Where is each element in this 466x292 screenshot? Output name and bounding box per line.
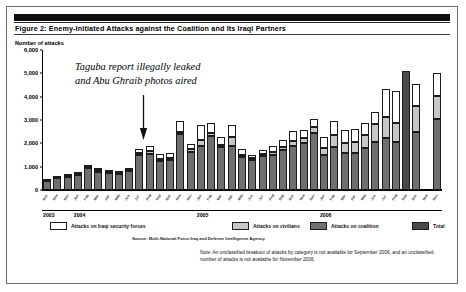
bar-segment-isf: [217, 137, 225, 144]
bar-segment-isf: [269, 146, 277, 151]
bar-Aug: [146, 146, 154, 190]
bar-segment-isf: [64, 174, 72, 176]
legend-swatch-coalition: [310, 222, 327, 230]
bar-segment-civilians: [412, 106, 420, 132]
bar-segment-civilians: [207, 133, 215, 136]
x-tick-mark: [324, 189, 325, 191]
bar-Oct: [412, 84, 420, 190]
x-tick-label: Apr: [350, 194, 357, 201]
y-tick-label: 4,000: [24, 94, 38, 100]
bar-segment-civilians: [197, 140, 205, 146]
bar-segment-civilians: [433, 96, 441, 118]
x-tick-mark: [345, 189, 346, 191]
x-tick-mark: [68, 189, 69, 191]
bar-Jul: [259, 150, 267, 190]
bar-segment-coalition: [105, 173, 113, 190]
x-tick-mark: [119, 189, 120, 191]
legend-item-coalition[interactable]: Attacks on coalition: [310, 222, 379, 230]
legend-label-isf: Attacks on Iraqi security forces: [71, 223, 145, 229]
bar-Jan: [197, 125, 205, 190]
x-tick-label: Sep: [278, 194, 285, 202]
bar-segment-isf: [259, 150, 267, 154]
bar-segment-civilians: [279, 147, 287, 151]
x-tick-label: Apr: [104, 194, 111, 201]
bar-segment-isf: [392, 91, 400, 123]
bar-May: [115, 172, 123, 190]
bar-Mar: [341, 130, 349, 190]
bar-segment-coalition: [197, 146, 205, 190]
legend-swatch-total: [412, 222, 429, 230]
bar-segment-isf: [176, 121, 184, 132]
y-tick-mark: [40, 120, 43, 121]
legend-item-civilians[interactable]: Attacks on civilians: [232, 222, 300, 230]
bar-segment-civilians: [176, 132, 184, 135]
x-tick-label: Jan: [73, 194, 80, 201]
bar-segment-isf: [146, 146, 154, 151]
bar-segment-coalition: [217, 147, 225, 190]
bar-segment-isf: [330, 121, 338, 135]
x-tick-label: Oct: [42, 194, 48, 201]
bar-segment-coalition: [320, 155, 328, 190]
bar-segment-isf: [187, 144, 195, 149]
bar-segment-isf: [341, 130, 349, 143]
x-tick-mark: [416, 189, 417, 191]
bar-segment-isf: [228, 125, 236, 137]
annotation-line-2: and Abu Ghraib photos aired: [75, 74, 275, 88]
x-tick-label: Dec: [186, 194, 193, 202]
y-tick-mark: [40, 143, 43, 144]
x-tick-label: Nov: [422, 193, 429, 201]
x-tick-label: Oct: [411, 194, 417, 201]
x-tick-label: Nov: [298, 193, 305, 201]
x-tick-mark: [139, 189, 140, 191]
legend-item-isf[interactable]: Attacks on Iraqi security forces: [50, 222, 145, 230]
x-tick-mark: [242, 189, 243, 191]
y-tick-mark: [40, 166, 43, 167]
bar-segment-coalition: [125, 171, 133, 190]
x-tick-label: Apr: [227, 194, 234, 201]
x-tick-mark: [355, 189, 356, 191]
year-band-2004: 2004: [73, 210, 196, 218]
x-tick-mark: [437, 189, 438, 191]
x-axis-year-bands: 2003200420052006: [42, 210, 442, 218]
bar-Feb: [84, 166, 92, 191]
x-tick-mark: [386, 189, 387, 191]
bar-segment-civilians: [330, 135, 338, 147]
bar-segment-isf: [166, 153, 174, 157]
bar-Nov: [300, 130, 308, 190]
bar-segment-civilians: [238, 155, 246, 157]
bar-Apr: [351, 129, 359, 190]
x-tick-mark: [88, 189, 89, 191]
y-tick-label: 1,000: [24, 164, 38, 170]
x-tick-label: Nov: [52, 193, 59, 201]
x-tick-mark: [170, 189, 171, 191]
bar-segment-total: [402, 71, 410, 190]
x-tick-label: Nov: [175, 193, 182, 201]
bar-segment-isf: [371, 112, 379, 124]
year-band-2003: 2003: [42, 210, 73, 218]
bar-May: [361, 123, 369, 190]
bar-segment-isf: [43, 179, 51, 181]
x-tick-mark: [211, 189, 212, 191]
bar-segment-coalition: [176, 134, 184, 190]
x-tick-label: Aug: [145, 193, 152, 201]
x-tick-mark: [334, 189, 335, 191]
x-tick-mark: [406, 189, 407, 191]
bar-segment-coalition: [300, 143, 308, 190]
down-arrow-icon: [139, 95, 148, 140]
chart-annotation: Taguba report illegally leaked and Abu G…: [75, 60, 275, 87]
x-tick-label: Jan: [319, 194, 326, 201]
x-tick-mark: [47, 189, 48, 191]
bar-segment-isf: [135, 149, 143, 153]
bar-segment-isf: [115, 171, 123, 173]
legend-item-total[interactable]: Total: [412, 222, 445, 230]
x-tick-mark: [283, 189, 284, 191]
x-tick-label: Oct: [165, 194, 171, 201]
bar-segment-civilians: [320, 148, 328, 155]
bar-segment-coalition: [361, 148, 369, 190]
bar-segment-isf: [84, 165, 92, 167]
x-axis-labels: OctNovDecJanFebMarAprMayJunJulAugSepOctN…: [42, 191, 442, 207]
bar-segment-isf: [320, 137, 328, 148]
bar-segment-civilians: [371, 124, 379, 142]
bar-segment-civilians: [248, 158, 256, 160]
bar-segment-civilians: [269, 152, 277, 155]
